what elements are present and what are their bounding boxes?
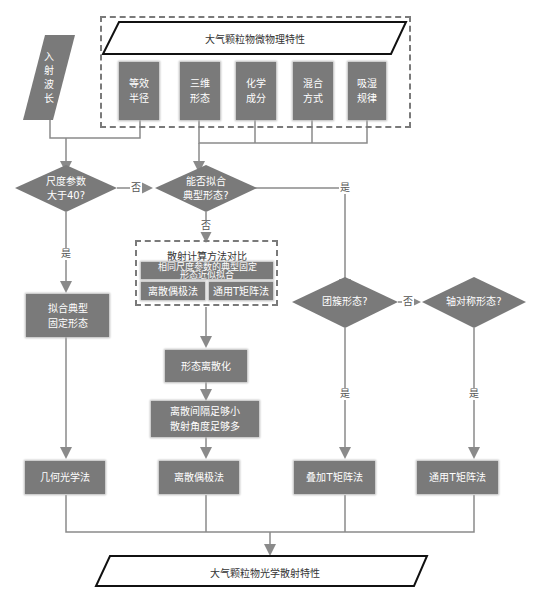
method-dda: 离散偶极法 <box>159 461 239 494</box>
input-wavelength-label: 入 射 波 长 <box>44 50 54 106</box>
method-general-tmatrix: 通用T矩阵法 <box>417 461 498 494</box>
step-fit-fixed-morphology: 拟合典型 固定形态 <box>26 294 109 337</box>
decision-axisymmetric: 轴对称形态? <box>434 295 514 309</box>
step-discrete-condition: 离散间隔足够小 散射角度足够多 <box>151 401 259 437</box>
edge-label-yes-size: 是 <box>60 248 72 260</box>
edge-label-no-size: 否 <box>130 182 142 194</box>
step-morphology-discretization: 形态离散化 <box>165 350 247 382</box>
decision-cluster: 团簇形态? <box>310 295 380 309</box>
micro-item-mixing-mode: 混合 方式 <box>293 62 333 120</box>
input-wavelength-node: 入 射 波 长 <box>32 40 66 116</box>
output-optical-scattering: 大气颗粒物光学散射特性 <box>110 565 420 580</box>
micro-item-3d-morphology: 三维 形态 <box>180 62 220 120</box>
comparison-method-dda: 离散偶极法 <box>141 282 205 300</box>
decision-fit-typical: 能否拟合 典型形态? <box>176 176 236 202</box>
micro-item-hygroscopic: 吸湿 规律 <box>348 62 386 120</box>
comparison-method-tmatrix: 通用T矩阵法 <box>209 282 273 300</box>
method-superposition-tmatrix: 叠加T矩阵法 <box>294 461 375 494</box>
edge-label-yes-fit: 是 <box>339 182 351 194</box>
edge-label-yes-cluster: 是 <box>339 388 351 400</box>
edge-label-no-cluster: 否 <box>402 296 414 308</box>
comparison-title: 散射计算方法对比 <box>137 248 276 263</box>
micro-item-chemical-composition: 化学 成分 <box>236 62 276 120</box>
method-geometric-optics: 几何光学法 <box>25 461 105 494</box>
decision-size-parameter: 尺度参数 大于40? <box>36 176 96 202</box>
micro-item-equivalent-radius: 等效 半径 <box>119 62 159 120</box>
edge-label-yes-axis: 是 <box>468 388 480 400</box>
micro-properties-title: 大气颗粒物微物理特性 <box>120 31 390 46</box>
comparison-approx-fit: 相同尺度参数的典型固定 形态近似拟合 <box>141 262 273 279</box>
edge-label-no-fit: 否 <box>200 220 212 232</box>
